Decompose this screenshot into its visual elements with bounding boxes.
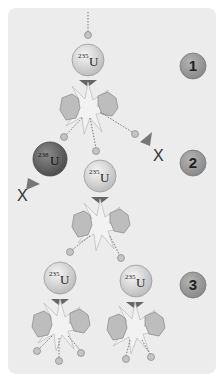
neutron [85, 32, 92, 39]
neutron [148, 354, 155, 361]
nucleus-u235-c: 235 U [44, 262, 76, 294]
svg-text:2: 2 [189, 154, 197, 171]
neutron [123, 356, 130, 363]
nucleus-u235-d: 235 U [120, 265, 152, 297]
blocked-x-icon: X [153, 147, 164, 164]
fission-explosion [72, 199, 130, 251]
blocked-x-icon: X [17, 187, 28, 204]
neutron [118, 255, 125, 262]
neutron [34, 348, 41, 355]
arrow-icon [140, 132, 152, 146]
svg-text:235: 235 [49, 270, 60, 278]
fission-explosion [32, 299, 90, 351]
fission-explosion [60, 82, 118, 134]
svg-text:U: U [50, 153, 60, 168]
neutron [78, 350, 85, 357]
svg-text:235: 235 [125, 273, 136, 281]
svg-text:U: U [136, 275, 146, 290]
svg-text:3: 3 [189, 276, 197, 293]
svg-text:U: U [60, 272, 70, 287]
nucleus-u235-a: 235 U [72, 44, 104, 76]
fission-explosion [107, 302, 165, 354]
arrow-icon [26, 178, 40, 190]
svg-text:1: 1 [189, 57, 197, 74]
neutron [61, 134, 68, 141]
nucleus-u238: 238 U [33, 142, 67, 176]
step-badge-2: 2 [180, 150, 206, 176]
svg-text:238: 238 [38, 151, 49, 159]
neutron [93, 148, 100, 155]
neutron [132, 131, 139, 138]
svg-text:U: U [100, 170, 110, 185]
svg-text:U: U [89, 54, 99, 69]
neutron [67, 249, 74, 256]
fission-diagram: 235 U 1 X 238 U X 235 U 2 235 U [0, 0, 224, 382]
step-badge-1: 1 [180, 53, 206, 79]
nucleus-u235-b: 235 U [84, 160, 116, 192]
neutron [56, 358, 63, 365]
svg-text:235: 235 [89, 168, 100, 176]
step-badge-3: 3 [180, 272, 206, 298]
svg-text:235: 235 [78, 52, 89, 60]
